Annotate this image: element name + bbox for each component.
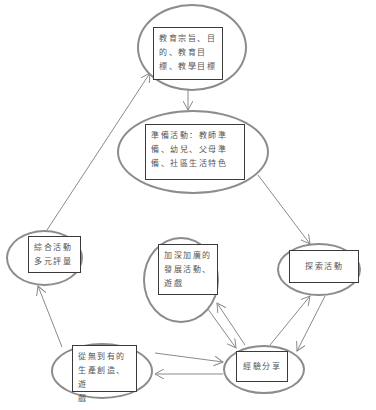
text-line: 遊戲 [164, 277, 212, 291]
box-create: 從無到有的 生產創造、遊 戲 [72, 345, 137, 392]
text-line: 的、教育目 [159, 46, 217, 60]
text-line: 準備活動：教師準 [151, 129, 239, 143]
text-line: 探索活動 [305, 260, 343, 274]
text-line: 綜合活動 [34, 241, 75, 255]
box-share: 經驗分享 [236, 351, 288, 382]
text-line: 加深加廣的 [164, 249, 212, 263]
text-line: 戲 [78, 392, 131, 406]
edge-deepen-to-share [205, 305, 236, 348]
text-line: 備、幼兒、父母準 [151, 143, 239, 157]
text-line: 教育宗旨、目 [159, 32, 217, 46]
text-line: 從無到有的 [78, 350, 131, 364]
edge-create-to-share [155, 353, 223, 362]
box-goals: 教育宗旨、目 的、教育目 標、教學目標 [153, 27, 223, 80]
box-preparation: 準備活動：教師準 備、幼兒、父母準 備、社區生活特色 [145, 124, 245, 180]
text-line: 備、社區生活特色 [151, 157, 239, 171]
edge-share-to-deepen [217, 303, 245, 345]
box-integrate: 綜合活動 多元評量 [28, 236, 81, 273]
text-line: 生產創造、遊 [78, 364, 131, 392]
box-exploration: 探索活動 [289, 250, 359, 283]
box-deepen: 加深加廣的 發展活動、 遊戲 [158, 244, 218, 295]
text-line: 多元評量 [34, 255, 75, 269]
text-line: 經驗分享 [243, 360, 281, 374]
edge-preparation-to-exploration [258, 175, 310, 244]
edge-exploration-to-share [297, 296, 325, 351]
text-line: 標、教學目標 [159, 60, 217, 74]
edge-create-to-integrate [38, 286, 62, 347]
text-line: 發展活動、 [164, 263, 212, 277]
